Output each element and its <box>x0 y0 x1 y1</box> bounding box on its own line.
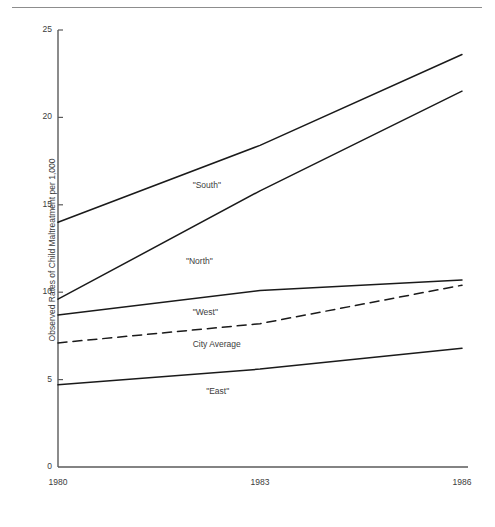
series-line <box>58 54 462 222</box>
series-label: "North" <box>186 256 213 266</box>
y-axis-tick-label: 15 <box>12 199 52 209</box>
series-line <box>58 348 462 385</box>
y-axis-ticks <box>58 30 63 380</box>
y-axis-tick-label: 0 <box>12 461 52 471</box>
series-label: "West" <box>193 307 218 317</box>
chart-series-lines <box>58 54 462 384</box>
x-axis-tick-label: 1986 <box>432 477 492 487</box>
figure-canvas: Observed Rates of Child Maltreatment per… <box>0 0 495 527</box>
y-axis-tick-label: 20 <box>12 111 52 121</box>
y-axis-tick-label: 5 <box>12 374 52 384</box>
series-label: "South" <box>193 180 221 190</box>
x-axis-tick-label: 1983 <box>230 477 290 487</box>
series-line <box>58 285 462 343</box>
y-axis-tick-label: 10 <box>12 286 52 296</box>
chart-axes <box>58 30 468 467</box>
y-axis-title: Observed Rates of Child Maltreatment per… <box>47 100 57 400</box>
x-axis-tick-label: 1980 <box>28 477 88 487</box>
series-label: "East" <box>206 386 229 396</box>
series-line <box>58 91 462 299</box>
y-axis-tick-label: 25 <box>12 24 52 34</box>
series-label: City Average <box>193 339 241 349</box>
line-chart-plot <box>0 0 495 527</box>
